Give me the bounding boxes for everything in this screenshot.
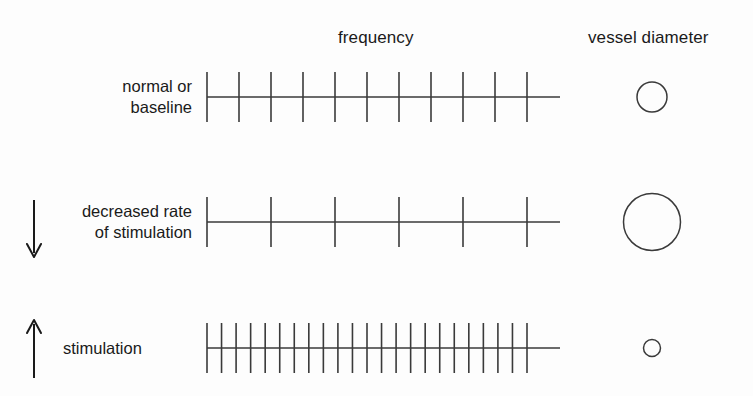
- row-label-normal-baseline: normal or baseline: [32, 76, 192, 118]
- frequency-axis-stimulation: [195, 0, 575, 396]
- row-label-stimulation: stimulation: [63, 338, 213, 359]
- up-arrow-icon: [22, 316, 52, 386]
- vessel-circle-stimulation: [600, 0, 710, 396]
- row-label-decreased-rate: decreased rate of stimulation: [32, 201, 192, 243]
- frequency-vessel-diameter-diagram: frequency vessel diameter normal or base…: [0, 0, 753, 396]
